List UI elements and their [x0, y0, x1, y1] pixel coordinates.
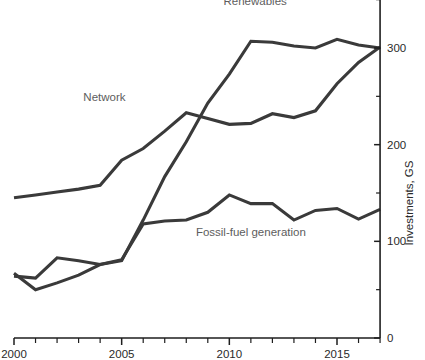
y-tick-label: 0 — [387, 332, 393, 344]
y-tick-label: 300 — [387, 42, 406, 54]
series-label-network: Network — [83, 91, 125, 103]
series-label-renewables: Renewables — [224, 0, 288, 7]
series-group — [14, 39, 380, 289]
axis-labels-group: 01002003002000200520102015RenewablesNetw… — [1, 0, 415, 360]
series-label-fossil-fuel-generation: Fossil-fuel generation — [196, 226, 306, 238]
x-tick-label: 2005 — [109, 348, 135, 360]
x-tick-label: 2015 — [324, 348, 350, 360]
series-line-renewables — [14, 39, 380, 289]
x-tick-label: 2010 — [217, 348, 243, 360]
chart-plot-area: 01002003002000200520102015RenewablesNetw… — [0, 0, 425, 360]
y-tick-label: 200 — [387, 139, 406, 151]
x-tick-label: 2000 — [1, 348, 27, 360]
axes-group — [14, 0, 380, 345]
investments-line-chart: 01002003002000200520102015RenewablesNetw… — [0, 0, 425, 360]
y-axis-title: Investments, GS — [403, 160, 415, 245]
